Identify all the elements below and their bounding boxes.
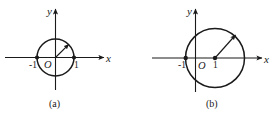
panel-b-caption: (b) [206,99,218,109]
panel-a-graphics [5,9,104,90]
panel-b-origin-label: O [198,61,206,72]
panel-b-tick-one: 1 [213,61,218,71]
panel-a-radius-arrow [56,44,69,57]
panel-a-tick-one: 1 [74,61,79,71]
figure-container: y x O -1 1 (a) y x O -1 1 (b) [0,0,276,121]
panel-a-tick-minus-one: -1 [29,61,37,71]
panel-b-tick-minus-one: -1 [178,61,186,71]
figure-drawing [0,0,276,121]
panel-a-origin-label: O [44,60,52,71]
panel-a-point-minus-one [35,55,39,59]
panel-b-graphics [152,9,262,92]
panel-b-y-axis-label: y [187,6,192,17]
panel-a-point-one [72,55,76,59]
panel-a-caption: (a) [49,99,60,109]
panel-b-x-axis-label: x [264,54,269,65]
panel-a-y-axis-label: y [47,6,52,17]
panel-a-x-axis-label: x [106,53,111,64]
panel-b-radius-arrow [215,35,236,58]
